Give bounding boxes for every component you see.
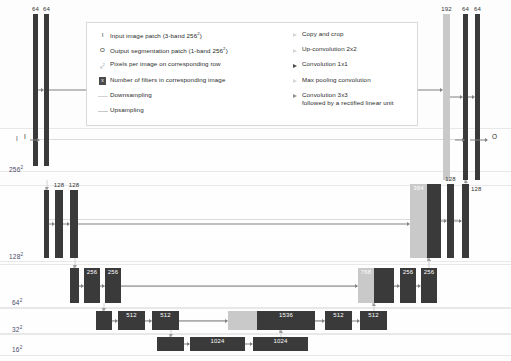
conv-arrow-enc-pool4-to-bottleneck-conv-a <box>184 341 190 347</box>
bar-enc-pool2 <box>70 268 79 303</box>
legend-panel: IInput image patch (3-band 2562)OOutput … <box>86 22 418 126</box>
legend-left-item-2: x2Pixels per image on corresponding row <box>95 60 263 69</box>
conv-arrow-enc-conv2-a-to-enc-conv2-b <box>63 221 70 227</box>
conv-arrow-bottleneck-conv-a-to-bottleneck-conv-b <box>245 341 253 347</box>
conv-arrow-enc-conv3-a-to-enc-conv3-b <box>100 283 105 289</box>
bar-label-dec-conv3-a: 256 <box>403 269 414 275</box>
bar-label-dec-conv1-b: 64 <box>474 6 481 12</box>
bar-dec-concat-1536 <box>228 311 257 330</box>
bar-label-bottleneck-conv-b: 1024 <box>273 338 287 344</box>
conv-arrow-dec-conv1-a-to-dec-conv1-b <box>468 94 475 100</box>
skip-rail-128 <box>48 219 458 220</box>
bar-enc-conv4-b: 512 <box>152 311 179 330</box>
upsample-arrow-row-64-to-row-128 <box>426 258 432 268</box>
legend-right-label-1: Up-convolution 2x2 <box>302 45 357 54</box>
legend-right-marker-4-icon <box>287 91 302 100</box>
conv-arrow-enc-pool2-to-enc-conv3-a <box>79 283 84 289</box>
conv-arrow-dec-conv3-pre-to-dec-conv3-a <box>394 283 400 289</box>
legend-right-label-2: Convolution 1x1 <box>302 60 348 69</box>
upsample-arrow-row-128-to-row-256 <box>463 180 469 184</box>
downsample-arrow-row-32-to-row-16 <box>168 330 174 337</box>
conv-arrow-enc-conv4-a-to-enc-conv4-b <box>145 318 152 324</box>
bar-label-enc-conv2-b: 128 <box>69 182 80 188</box>
legend-right-column: Copy and cropUp-convolution 2x2Convoluti… <box>287 30 415 114</box>
unet-architecture-diagram: I25621282642322162 646419264641281283841… <box>0 0 511 361</box>
upsample-arrow-row-16-to-row-32 <box>278 330 284 337</box>
bar-label-enc-conv3-a: 256 <box>87 269 98 275</box>
axis-label-1282: 1282 <box>9 252 23 260</box>
conv-arrow-dec-conv3-a-to-dec-conv3-b <box>416 283 421 289</box>
bar-dec-conv4-a: 512 <box>325 311 352 330</box>
legend-right-marker-2-icon <box>287 60 302 69</box>
legend-right-marker-1-icon <box>287 45 302 54</box>
bar-dec-conv4-b: 512 <box>360 311 387 330</box>
bar-dec-conv3-a: 256 <box>400 268 416 303</box>
conv-arrow-dec-conv2-a-to-dec-conv2-b <box>454 218 462 224</box>
bar-label-dec-conv4-a: 512 <box>333 312 344 318</box>
output-marker: O <box>492 133 497 140</box>
legend-left-item-1: OOutput segmentation patch (1-band 2562) <box>95 45 263 54</box>
legend-right-label-4: Convolution 3x3followed by a rectified l… <box>302 91 394 108</box>
bar-enc-pool3 <box>96 311 112 330</box>
bar-label-dec-concat-768: 768 <box>361 269 372 275</box>
bar-dec-conv2-a <box>447 184 454 258</box>
legend-left-item-0: IInput image patch (3-band 2562) <box>95 30 263 39</box>
upsample-arrow-row-32-to-row-64 <box>371 303 377 311</box>
legend-right-item-4: Convolution 3x3followed by a rectified l… <box>287 91 415 108</box>
legend-left-marker-1-icon: O <box>95 45 110 54</box>
bar-bottleneck-conv-b: 1024 <box>253 337 308 351</box>
legend-left-item-5: Upsampling <box>95 106 263 115</box>
legend-left-marker-5-icon <box>95 106 110 115</box>
bar-enc-conv2-b <box>70 190 78 258</box>
bar-label-enc-conv1-b: 64 <box>43 6 50 12</box>
legend-left-label-2: Pixels per image on corresponding row <box>110 60 221 69</box>
conv-arrow-enc-pool3-to-enc-conv4-a <box>112 318 118 324</box>
legend-right-item-1: Up-convolution 2x2 <box>287 45 415 54</box>
conv-arrow-enc-conv4-b-to-dec-concat-1536 <box>179 318 228 324</box>
legend-left-marker-0-icon: I <box>95 30 110 39</box>
bar-label-dec-conv1-a: 64 <box>462 6 469 12</box>
bar-enc-pool4 <box>157 337 184 351</box>
bar-dec-concat-768: 768 <box>358 268 374 303</box>
downsample-arrow-row-256-to-row-128 <box>44 180 50 190</box>
bar-enc-conv4-a: 512 <box>118 311 145 330</box>
bar-dec-concat-384: 384 <box>410 184 427 258</box>
band-row-256 <box>0 128 511 172</box>
conv-arrow-dec-conv4-a-to-dec-conv4-b <box>352 318 360 324</box>
bar-label-dec-conv4-1536: 1536 <box>279 312 293 318</box>
bar-dec-conv3-b: 256 <box>421 268 437 303</box>
output-arrow-b <box>470 137 488 142</box>
conv-arrow-dec-conv2-pre-to-dec-conv2-a <box>441 218 447 224</box>
output-arrow-a <box>455 137 465 142</box>
bar-label-dec-conv2-b: 128 <box>471 186 482 192</box>
legend-right-marker-3-icon <box>287 76 302 85</box>
bar-label-dec-conv4-b: 512 <box>368 312 379 318</box>
legend-right-item-2: Convolution 1x1 <box>287 60 415 69</box>
conv-arrow-enc-pool1-to-enc-conv2-a <box>49 221 55 227</box>
bar-label-dec-concat-192: 192 <box>441 6 452 12</box>
bar-dec-conv2-b <box>462 184 469 258</box>
bar-label-enc-conv4-a: 512 <box>126 312 137 318</box>
legend-left-item-4: Downsampling <box>95 91 263 100</box>
bar-label-bottleneck-conv-a: 1024 <box>210 338 224 344</box>
axis-label-322: 322 <box>12 325 22 333</box>
legend-right-item-0: Copy and crop <box>287 30 415 39</box>
legend-left-marker-3-icon: x <box>95 76 110 85</box>
legend-right-item-3: Max pooling convolution <box>287 76 415 85</box>
legend-left-label-1: Output segmentation patch (1-band 2562) <box>110 45 228 56</box>
legend-left-label-0: Input image patch (3-band 2562) <box>110 30 202 41</box>
bar-dec-conv1-b <box>475 14 480 180</box>
bar-label-dec-concat-384: 384 <box>413 185 424 191</box>
legend-left-column: IInput image patch (3-band 2562)OOutput … <box>95 30 263 121</box>
bar-enc-conv3-a: 256 <box>84 268 100 303</box>
legend-right-label-0: Copy and crop <box>302 30 344 39</box>
axis-label-2562: 2562 <box>9 165 23 173</box>
bar-dec-conv2-pre <box>427 184 441 258</box>
bar-enc-conv3-b: 256 <box>105 268 121 303</box>
legend-left-label-4: Downsampling <box>110 91 152 100</box>
skip-rail-256 <box>38 139 468 140</box>
legend-right-marker-0-icon <box>287 30 302 39</box>
conv-arrow-enc-conv3-b-to-dec-concat-768 <box>121 283 358 289</box>
bar-dec-conv4-1536: 1536 <box>257 311 315 330</box>
input-marker: I <box>24 133 26 140</box>
